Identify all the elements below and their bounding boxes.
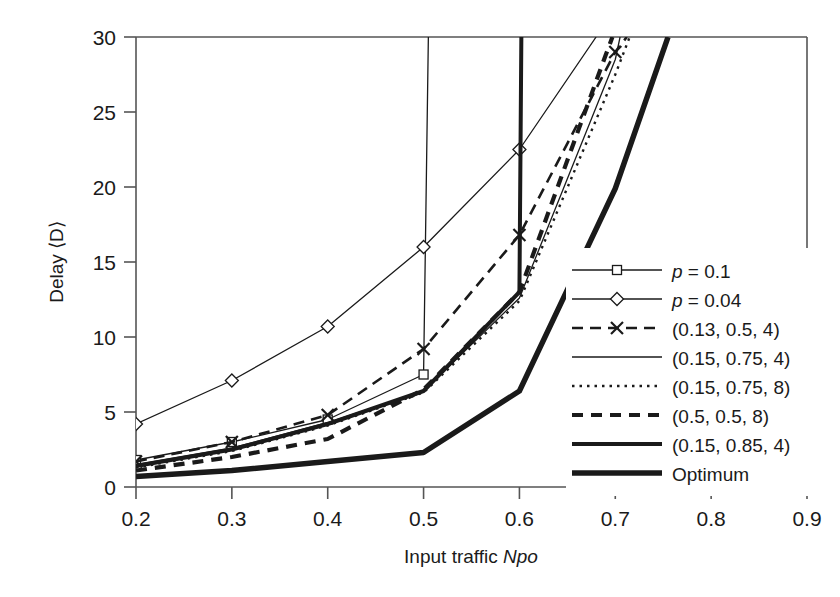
legend-label: Optimum [672, 464, 749, 485]
legend-label: p = 0.1 [671, 261, 731, 282]
legend-label: (0.15, 0.75, 4) [672, 348, 790, 369]
line-chart: 051015202530 0.20.30.40.50.60.70.80.9 In… [0, 0, 840, 597]
chart-legend: p = 0.1p = 0.04(0.13, 0.5, 4)(0.15, 0.75… [566, 248, 816, 496]
x-tick-label: 0.9 [792, 507, 821, 530]
legend-label: p = 0.04 [671, 290, 742, 311]
x-tick-label: 0.5 [409, 507, 438, 530]
marker-square [419, 370, 428, 379]
x-tick-label: 0.7 [601, 507, 630, 530]
y-tick-label: 15 [93, 251, 116, 274]
legend-label: (0.5, 0.5, 8) [672, 406, 769, 427]
y-tick-label: 10 [93, 326, 116, 349]
x-tick-label: 0.8 [697, 507, 726, 530]
y-tick-label: 25 [93, 101, 116, 124]
y-tick-label: 30 [93, 26, 116, 49]
legend-label: (0.13, 0.5, 4) [672, 319, 780, 340]
y-tick-label: 0 [104, 476, 116, 499]
chart-container: 051015202530 0.20.30.40.50.60.70.80.9 In… [0, 0, 840, 597]
x-tick-label: 0.2 [121, 507, 150, 530]
legend-label: (0.15, 0.85, 4) [672, 435, 790, 456]
marker-square [613, 266, 622, 275]
y-axis-title: Delay ⟨D⟩ [46, 221, 67, 303]
y-tick-label: 5 [104, 401, 116, 424]
y-tick-label: 20 [93, 176, 116, 199]
x-axis-title: Input traffic Npo [404, 546, 538, 567]
x-tick-label: 0.6 [505, 507, 534, 530]
legend-background [566, 248, 816, 496]
legend-label: (0.15, 0.75, 8) [672, 377, 790, 398]
x-tick-label: 0.4 [313, 507, 343, 530]
x-tick-label: 0.3 [217, 507, 246, 530]
